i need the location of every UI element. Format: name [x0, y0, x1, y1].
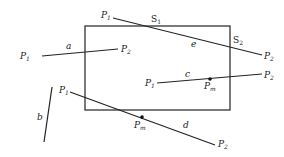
segment-c-pm-label: Pm: [203, 81, 216, 92]
segment-d-pm-label: Pm: [133, 120, 146, 131]
segment-c-p2-label: P2: [263, 70, 274, 81]
segment-e-p1-label: P1: [100, 10, 111, 21]
intersection-s1-label: S1: [151, 14, 161, 25]
segment-a-p1-label: P1: [19, 51, 30, 62]
clip-window-rect: [85, 26, 230, 110]
segment-c-name-label: c: [185, 69, 190, 79]
segment-b: [44, 87, 52, 142]
segment-c-p1-label: P1: [144, 78, 155, 89]
intersection-s2-label: S2: [233, 35, 243, 46]
segment-a: [42, 49, 118, 56]
segment-e-name-label: e: [191, 39, 196, 49]
segment-e: [113, 18, 262, 55]
line-clipping-diagram: P1 P2 a b P1 P2 Pm c P1 P2 Pm d P1 P2 S1…: [0, 0, 284, 157]
segment-b-name-label: b: [37, 112, 43, 122]
segment-a-p2-label: P2: [120, 44, 131, 55]
segment-a-name-label: a: [66, 41, 71, 51]
segment-d-p2-label: P2: [217, 139, 228, 150]
segment-e-p2-label: P2: [263, 51, 274, 62]
segment-d-name-label: d: [183, 120, 189, 130]
segment-d-p1-label: P1: [58, 85, 69, 96]
segment-d-midpoint-dot: [140, 115, 144, 119]
